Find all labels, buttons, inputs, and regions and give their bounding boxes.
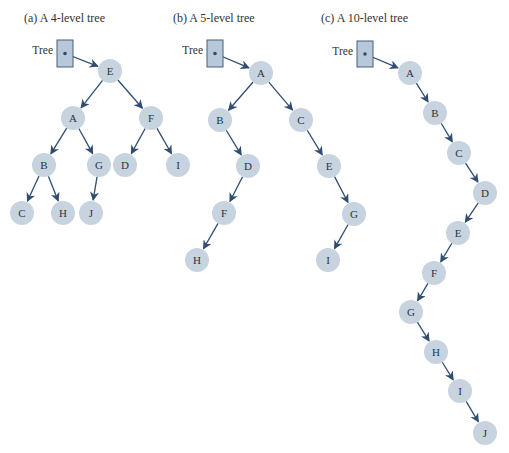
edge-B-D <box>226 130 241 155</box>
node-label: H <box>432 346 440 358</box>
edge-F-G <box>418 283 428 300</box>
tree-node-E: E <box>98 59 122 83</box>
edge-E-A <box>81 80 103 107</box>
tree-node-B: B <box>32 153 56 177</box>
tree-node-G: G <box>342 202 366 226</box>
pointer-dot <box>213 52 217 56</box>
pointer-dot <box>63 52 67 56</box>
edge-B-H <box>48 176 58 201</box>
edge-E-G <box>335 177 348 203</box>
pointer-dot <box>363 52 367 56</box>
edge-I-J <box>466 401 478 422</box>
tree-node-C: C <box>10 201 34 225</box>
tree-node-F: F <box>139 106 163 130</box>
node-label: D <box>244 160 252 172</box>
node-label: I <box>458 385 462 397</box>
tree-node-A: A <box>61 106 85 130</box>
tree-2: Tree <box>332 41 373 67</box>
node-label: F <box>148 112 154 124</box>
node-label: J <box>89 207 94 219</box>
node-label: G <box>95 159 103 171</box>
tree-node-A: A <box>398 61 422 85</box>
edge-F-D <box>131 129 145 154</box>
node-label: C <box>297 114 304 126</box>
tree-node-H: H <box>51 201 75 225</box>
node-label: F <box>431 267 437 279</box>
tree-node-J: J <box>473 421 497 445</box>
tree-node-A: A <box>249 61 273 85</box>
edge-F-H <box>203 223 218 248</box>
edge-G-H <box>417 322 429 341</box>
tree-node-D: D <box>236 154 260 178</box>
node-label: A <box>69 112 77 124</box>
tree-node-C: C <box>289 108 313 132</box>
tree-node-I: I <box>316 248 340 272</box>
node-label: E <box>107 65 114 77</box>
edge-G-I <box>334 224 348 248</box>
node-label: B <box>216 114 223 126</box>
edge-C-E <box>307 130 322 155</box>
tree-node-D: D <box>473 181 497 205</box>
tree-node-E: E <box>317 154 341 178</box>
tree-node-G: G <box>87 153 111 177</box>
node-label: B <box>40 159 47 171</box>
tree-node-I: I <box>448 379 472 403</box>
edge-A-G <box>79 129 93 154</box>
edge-E-F <box>441 243 452 262</box>
tree-1: Tree <box>182 40 223 67</box>
tree-node-H: H <box>424 340 448 364</box>
node-label: H <box>193 254 201 266</box>
tree-node-B: B <box>423 101 447 125</box>
root-pointer-label: Tree <box>332 45 353 57</box>
node-label: I <box>326 254 330 266</box>
edge-D-F <box>230 177 243 202</box>
tree-node-D: D <box>113 153 137 177</box>
tree-diagrams: EAFBGDICHJTreeABCDEFGHITreeABCDEFGHIJTre… <box>0 0 509 453</box>
edge-C-D <box>466 163 478 182</box>
edge-E-F <box>118 80 143 108</box>
node-label: D <box>481 187 489 199</box>
root-pointer-label: Tree <box>32 44 53 56</box>
node-label: C <box>18 207 25 219</box>
node-label: E <box>326 160 333 172</box>
node-label: A <box>257 67 265 79</box>
node-label: A <box>406 67 414 79</box>
edge-A-C <box>269 82 293 110</box>
node-label: F <box>221 207 227 219</box>
tree-node-J: J <box>79 201 103 225</box>
node-label: D <box>121 159 129 171</box>
tree-node-G: G <box>399 300 423 324</box>
edge-H-I <box>442 362 453 380</box>
edge-F-I <box>157 128 172 153</box>
tree-node-C: C <box>447 141 471 165</box>
node-label: G <box>350 208 358 220</box>
node-label: G <box>407 306 415 318</box>
tree-node-H: H <box>185 248 209 272</box>
tree-node-E: E <box>446 221 470 245</box>
edge-A-B <box>229 82 254 110</box>
node-label: J <box>483 427 488 439</box>
node-label: I <box>176 159 180 171</box>
edge-A-B <box>416 83 428 102</box>
node-label: B <box>431 107 438 119</box>
tree-node-F: F <box>212 201 236 225</box>
edge-B-C <box>441 123 452 142</box>
tree-0: Tree <box>32 40 73 67</box>
node-label: C <box>455 147 462 159</box>
edge-B-C <box>27 176 39 201</box>
node-label: H <box>59 207 67 219</box>
tree-node-I: I <box>166 153 190 177</box>
tree-node-F: F <box>422 261 446 285</box>
tree-node-B: B <box>208 108 232 132</box>
edge-A-B <box>51 128 67 154</box>
root-pointer-label: Tree <box>182 44 203 56</box>
edge-G-J <box>93 177 97 200</box>
edge-D-E <box>465 203 478 222</box>
node-label: E <box>455 227 462 239</box>
